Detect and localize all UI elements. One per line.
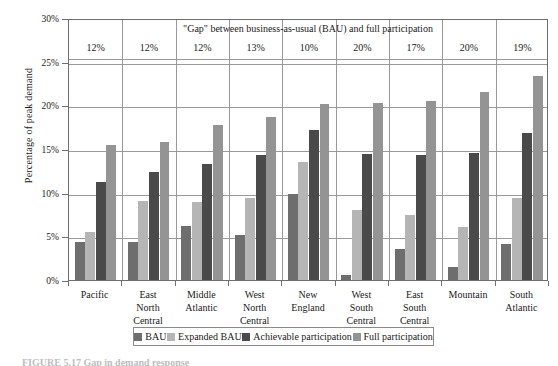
x-category-label-line: South (388, 301, 441, 314)
x-category-label-line: North (121, 301, 174, 314)
x-category-label-line: South (495, 288, 548, 301)
legend-swatch-icon (134, 333, 142, 341)
x-category-label-line: North (228, 301, 281, 314)
x-category-label-line: West (228, 288, 281, 301)
figure-caption: FIGURE 5.17 Gap in demand response (22, 357, 189, 366)
y-tick-label: 0% (46, 276, 59, 286)
x-tick-mark (495, 281, 496, 286)
x-category-label-line: Mountain (441, 288, 494, 301)
x-tick-mark (281, 281, 282, 286)
legend-item[interactable]: Achievable participation (242, 331, 352, 342)
x-category-label-line: South (335, 301, 388, 314)
x-tick-mark (175, 281, 176, 286)
x-category-label: EastSouthCentral (388, 288, 441, 327)
x-tick-mark (228, 281, 229, 286)
legend-item[interactable]: BAU (134, 331, 166, 342)
x-category-label-line: England (281, 301, 334, 314)
x-category-label-line: Central (228, 314, 281, 327)
legend-label: Expanded BAU (178, 331, 242, 342)
legend-label: BAU (145, 331, 166, 342)
x-category-label-line: Pacific (68, 288, 121, 301)
legend-item[interactable]: Full participation (353, 331, 433, 342)
x-category-label: WestNorthCentral (228, 288, 281, 327)
x-category-label: EastNorthCentral (121, 288, 174, 327)
x-category-label-line: East (388, 288, 441, 301)
x-category-label-line: East (121, 288, 174, 301)
x-category-label: SouthAtlantic (495, 288, 548, 314)
figure-container: Percentage of peak demand 0%5%10%15%20%2… (0, 0, 558, 366)
x-category-label-line: Atlantic (495, 301, 548, 314)
legend-swatch-icon (242, 333, 250, 341)
legend-swatch-icon (353, 333, 361, 341)
x-tick-mark (121, 281, 122, 286)
x-axis-ticks (68, 19, 548, 287)
x-tick-mark (68, 281, 69, 286)
y-tick-label: 25% (42, 58, 59, 68)
x-tick-mark (335, 281, 336, 286)
chart-legend: BAUExpanded BAUAchievable participationF… (133, 327, 434, 346)
x-tick-mark (441, 281, 442, 286)
legend-item[interactable]: Expanded BAU (167, 331, 242, 342)
y-tick-label: 5% (46, 232, 59, 242)
x-category-label: Pacific (68, 288, 121, 301)
y-tick-label: 10% (42, 189, 59, 199)
y-tick-label: 15% (42, 145, 59, 155)
x-category-label-line: New (281, 288, 334, 301)
legend-swatch-icon (167, 333, 175, 341)
x-category-label-line: Atlantic (175, 301, 228, 314)
x-category-label-line: Central (335, 314, 388, 327)
x-category-label: WestSouthCentral (335, 288, 388, 327)
x-category-label: NewEngland (281, 288, 334, 314)
y-tick-label: 20% (42, 101, 59, 111)
x-category-label: MiddleAtlantic (175, 288, 228, 314)
y-tick-label: 30% (42, 14, 59, 24)
x-category-label-line: Central (121, 314, 174, 327)
x-tick-mark (548, 281, 549, 286)
x-category-label-line: West (335, 288, 388, 301)
x-category-label-line: Central (388, 314, 441, 327)
x-tick-mark (388, 281, 389, 286)
legend-label: Achievable participation (253, 331, 352, 342)
x-category-label-line: Middle (175, 288, 228, 301)
x-category-label: Mountain (441, 288, 494, 301)
x-axis-category-labels: PacificEastNorthCentralMiddleAtlanticWes… (68, 288, 548, 332)
legend-label: Full participation (364, 331, 433, 342)
